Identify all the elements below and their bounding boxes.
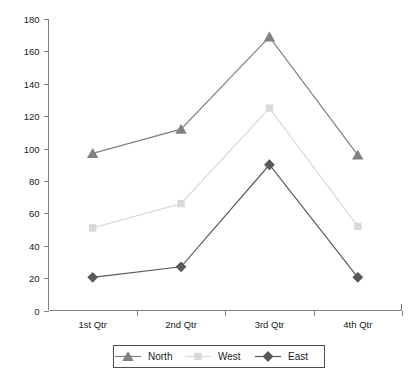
- y-tick-label: 180: [24, 14, 40, 25]
- x-category-label: 4th Qtr: [343, 319, 372, 330]
- data-point-north-0: [87, 148, 98, 158]
- legend-label-east: East: [288, 351, 308, 362]
- y-tick-label: 20: [29, 273, 40, 284]
- y-tick-label: 140: [24, 79, 40, 90]
- data-point-west-2: [266, 104, 274, 112]
- y-tick-label: 100: [24, 144, 40, 155]
- y-tick-label: 0: [34, 306, 39, 317]
- data-point-north-2: [264, 31, 275, 41]
- x-category-label: 1st Qtr: [78, 319, 107, 330]
- data-point-north-3: [352, 150, 363, 160]
- legend-label-north: North: [148, 351, 172, 362]
- x-category-label: 3rd Qtr: [255, 319, 285, 330]
- series-line-east: [93, 165, 358, 278]
- x-axis-ticks: [138, 311, 403, 316]
- data-point-west-3: [354, 223, 362, 231]
- chart-canvas: 020406080100120140160180 1st Qtr2nd Qtr3…: [0, 0, 419, 383]
- legend-label-west: West: [218, 351, 241, 362]
- line-chart: 020406080100120140160180 1st Qtr2nd Qtr3…: [0, 0, 419, 383]
- y-axis-ticks: [44, 20, 49, 312]
- data-point-east-3: [352, 272, 363, 283]
- x-category-label: 2nd Qtr: [165, 319, 197, 330]
- data-point-west-1: [177, 200, 185, 208]
- series-line-north: [93, 37, 358, 155]
- x-axis-tick-labels: 1st Qtr2nd Qtr3rd Qtr4th Qtr: [78, 319, 372, 330]
- y-tick-label: 160: [24, 46, 40, 57]
- series-markers-group: [87, 31, 363, 282]
- data-point-west-0: [89, 224, 97, 232]
- y-tick-label: 40: [29, 241, 40, 252]
- data-point-east-0: [87, 272, 98, 283]
- y-tick-label: 60: [29, 208, 40, 219]
- legend-marker-west: [194, 353, 202, 361]
- y-tick-label: 80: [29, 176, 40, 187]
- y-tick-label: 120: [24, 111, 40, 122]
- y-axis-tick-labels: 020406080100120140160180: [24, 14, 40, 317]
- chart-legend: NorthWestEast: [114, 346, 325, 368]
- series-line-west: [93, 108, 358, 228]
- series-lines-group: [93, 37, 358, 277]
